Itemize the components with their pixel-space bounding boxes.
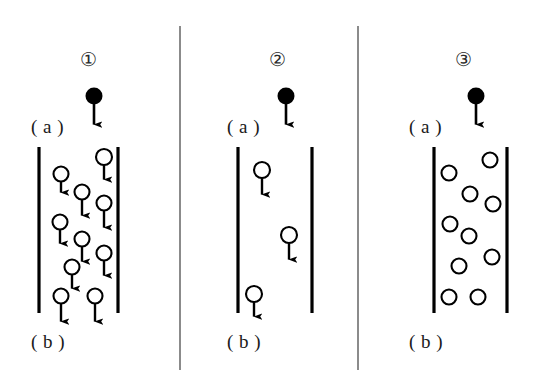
panel-1-particle (96, 149, 112, 165)
panel-1-incoming-particle (86, 88, 103, 105)
panel-3-number-label: ③ (449, 50, 477, 69)
panel-2-stage-a-label: ( a ) (227, 117, 260, 136)
panel-3-particle (443, 217, 458, 232)
panel-1-particle (97, 246, 112, 261)
panel-3-particle (463, 187, 478, 202)
panel-1-particle (75, 232, 90, 247)
panel-3-particle (485, 250, 500, 265)
svg-content-group (39, 26, 507, 370)
panel-3-particle (486, 197, 501, 212)
panel-1-particle (75, 185, 90, 200)
panel-1-stage-b-label: ( b ) (31, 332, 65, 351)
panel-3-particle (462, 229, 477, 244)
panel-3-particle (452, 259, 467, 274)
panel-3-particle (442, 290, 457, 305)
panel-1-stage-a-label: ( a ) (31, 117, 64, 136)
panel-1-particle (97, 196, 112, 211)
panel-1-particle (54, 167, 69, 182)
panel-3-incoming-particle (468, 88, 485, 105)
panel-3-stage-a-label: ( a ) (409, 117, 442, 136)
panel-1-particle (65, 260, 80, 275)
panel-3-particle (442, 166, 457, 181)
panel-3-particle (483, 153, 498, 168)
panel-2-particle (281, 227, 297, 243)
panel-2-incoming-particle (278, 88, 295, 105)
panel-2-particle (254, 162, 270, 178)
panel-2-number-label: ② (263, 50, 291, 69)
panel-2-particle (246, 286, 262, 302)
panel-1-particle (88, 289, 103, 304)
panel-3-stage-b-label: ( b ) (409, 332, 443, 351)
panel-2-stage-b-label: ( b ) (227, 332, 261, 351)
panel-1-particle (53, 215, 68, 230)
figure-canvas: ①( a )( b )②( a )( b )③( a )( b ) (0, 0, 535, 390)
panel-3-group (434, 88, 507, 314)
panel-1-number-label: ① (74, 50, 102, 69)
panel-3-particle (471, 290, 486, 305)
panel-1-particle (54, 289, 69, 304)
